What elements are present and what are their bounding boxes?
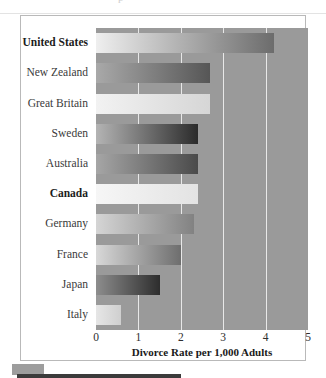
x-axis-title: Divorce Rate per 1,000 Adults bbox=[96, 347, 308, 358]
bar-canada bbox=[96, 184, 198, 204]
bar-france bbox=[96, 245, 181, 265]
category-label-germany: Germany bbox=[45, 218, 88, 230]
bar-row bbox=[96, 275, 308, 295]
bar-chart-plot-area bbox=[96, 28, 308, 330]
footer-rule-bar bbox=[17, 374, 181, 378]
bar-new-zealand bbox=[96, 63, 210, 83]
x-tick-label-1: 1 bbox=[136, 332, 142, 344]
bar-australia bbox=[96, 154, 198, 174]
x-axis-tick-labels: 012345 bbox=[96, 332, 308, 346]
bar-row bbox=[96, 305, 308, 325]
x-tick-label-0: 0 bbox=[93, 332, 99, 344]
bar-row bbox=[96, 33, 308, 53]
category-label-united-states: United States bbox=[23, 37, 89, 49]
bar-japan bbox=[96, 275, 160, 295]
bar-germany bbox=[96, 214, 194, 234]
category-label-italy: Italy bbox=[67, 309, 88, 321]
category-label-japan: Japan bbox=[62, 279, 88, 291]
bar-row bbox=[96, 245, 308, 265]
x-tick-label-2: 2 bbox=[178, 332, 184, 344]
x-tick-label-5: 5 bbox=[305, 332, 311, 344]
bar-sweden bbox=[96, 124, 198, 144]
x-tick-label-4: 4 bbox=[263, 332, 269, 344]
bar-united-states bbox=[96, 33, 274, 53]
category-label-france: France bbox=[57, 249, 88, 261]
top-hairline-divider bbox=[0, 13, 326, 14]
bar-great-britain bbox=[96, 94, 210, 114]
bar-row bbox=[96, 94, 308, 114]
y-axis-category-labels: United StatesNew ZealandGreat BritainSwe… bbox=[21, 28, 92, 330]
bar-row bbox=[96, 184, 308, 204]
page-top-sliver: p bbox=[0, 0, 326, 13]
bar-row bbox=[96, 124, 308, 144]
bar-row bbox=[96, 214, 308, 234]
bar-row bbox=[96, 154, 308, 174]
bar-row bbox=[96, 63, 308, 83]
category-label-new-zealand: New Zealand bbox=[26, 67, 88, 79]
category-label-great-britain: Great Britain bbox=[28, 98, 88, 110]
cutoff-text: p bbox=[118, 0, 124, 3]
category-label-sweden: Sweden bbox=[52, 128, 88, 140]
bar-italy bbox=[96, 305, 121, 325]
category-label-australia: Australia bbox=[46, 158, 88, 170]
category-label-canada: Canada bbox=[50, 188, 88, 200]
x-tick-label-3: 3 bbox=[220, 332, 226, 344]
